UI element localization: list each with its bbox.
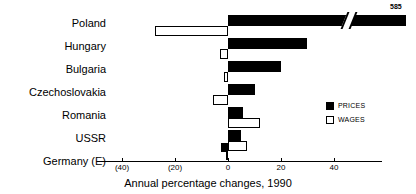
x-tick-20 (281, 158, 282, 161)
x-tick-label-zero: 0 (226, 164, 230, 172)
data-label-poland-prices: 585 (390, 3, 402, 10)
legend-item-prices: PRICES (326, 100, 365, 111)
bar-wages-ussr (228, 141, 247, 151)
plot-area: 585 (0, 0, 416, 194)
bar-prices-ussr (228, 130, 241, 141)
chart-container: Poland Hungary Bulgaria Czechoslovakia R… (0, 0, 416, 194)
bar-prices-germany-e (221, 143, 228, 152)
legend-label-prices: PRICES (338, 102, 365, 109)
x-tick-label-20: 20 (277, 164, 286, 172)
x-tick-zero (228, 158, 229, 161)
bar-prices-romania (228, 107, 243, 118)
bar-wages-czechoslovakia (213, 95, 228, 105)
bar-wages-bulgaria (224, 72, 228, 82)
bar-wages-hungary (220, 49, 228, 59)
bar-prices-czechoslovakia (228, 84, 255, 95)
legend-swatch-wages-icon (326, 116, 334, 124)
x-tick-label-40: 40 (330, 164, 339, 172)
x-tick-label-minus20: (20) (168, 164, 182, 172)
legend-item-wages: WAGES (326, 114, 365, 125)
legend-swatch-prices-icon (326, 102, 334, 110)
x-tick-label-minus40: (40) (115, 164, 129, 172)
legend-label-wages: WAGES (338, 116, 365, 123)
chart-legend: PRICES WAGES (326, 100, 365, 128)
x-axis-caption: Annual percentage changes, 1990 (0, 178, 416, 189)
bar-prices-hungary (228, 38, 307, 49)
x-axis-line (101, 161, 382, 162)
bar-prices-bulgaria (228, 61, 281, 72)
bar-wages-romania (228, 118, 260, 128)
bar-wages-poland (155, 26, 228, 36)
x-tick-minus20 (175, 158, 176, 161)
bar-prices-poland (228, 15, 406, 26)
x-tick-minus40 (122, 158, 123, 161)
x-tick-40 (334, 158, 335, 161)
